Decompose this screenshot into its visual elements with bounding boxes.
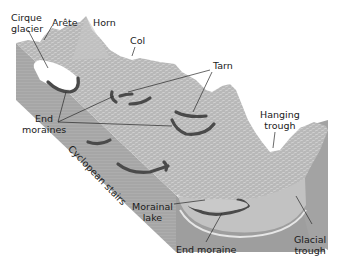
- label-tarn: Tarn: [213, 60, 233, 71]
- label-cirque-glacier: Cirque glacier: [11, 12, 43, 34]
- label-line: End: [22, 113, 66, 124]
- label-line: Glacial: [294, 234, 326, 245]
- label-line: moraines: [22, 124, 66, 135]
- label-line: Hanging: [260, 109, 300, 120]
- label-line: Cirque: [11, 12, 43, 23]
- label-arete: Arête: [52, 17, 78, 28]
- label-horn: Horn: [93, 17, 116, 28]
- label-hanging-trough: Hanging trough: [260, 109, 300, 131]
- label-morainal-lake: Morainal lake: [132, 201, 173, 223]
- label-end-moraine: End moraine: [176, 244, 236, 255]
- label-glacial-trough: Glacial trough: [294, 234, 326, 256]
- label-col: Col: [130, 35, 145, 46]
- label-line: trough: [294, 245, 326, 256]
- label-end-moraines: End moraines: [22, 113, 66, 135]
- glacial-landforms-diagram: Cirque glacier Arête Horn Col Tarn End m…: [0, 0, 338, 268]
- label-line: lake: [132, 212, 173, 223]
- label-line: trough: [260, 120, 300, 131]
- label-line: Morainal: [132, 201, 173, 212]
- label-line: glacier: [11, 23, 43, 34]
